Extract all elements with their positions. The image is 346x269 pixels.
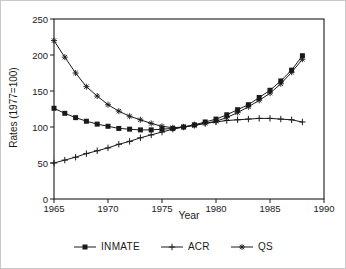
x-axis-label: Year — [54, 209, 324, 221]
series-line-qs — [54, 41, 302, 128]
series-line-acr — [54, 118, 302, 163]
series-markers-qs — [51, 38, 305, 131]
chart-legend: INMATEACRQS — [1, 241, 345, 252]
square-marker — [138, 127, 143, 132]
asterisk-marker — [245, 104, 251, 110]
plus-marker — [105, 145, 111, 151]
plus-marker — [299, 119, 305, 125]
asterisk-marker — [94, 93, 100, 99]
plus-marker — [83, 150, 89, 156]
square-marker — [52, 106, 57, 111]
asterisk-marker — [235, 110, 241, 116]
plus-marker — [278, 116, 284, 122]
asterisk-marker — [51, 38, 57, 44]
legend-label: QS — [258, 241, 273, 252]
plus-marker — [116, 141, 122, 147]
y-tick-label: 100 — [32, 122, 48, 133]
legend-item-inmate: INMATE — [73, 241, 140, 252]
legend-item-qs: QS — [230, 241, 273, 252]
asterisk-marker — [299, 56, 305, 62]
square-marker — [127, 127, 132, 132]
asterisk-marker — [127, 113, 133, 119]
asterisk-marker — [256, 97, 262, 103]
square-marker — [95, 122, 100, 127]
square-marker — [149, 127, 154, 132]
plus-marker — [245, 116, 251, 122]
asterisk-marker — [116, 108, 122, 114]
plot-box — [54, 19, 324, 199]
y-axis-label: Rates (1977=100) — [8, 18, 19, 198]
square-marker — [84, 119, 89, 124]
asterisk-marker — [137, 117, 143, 123]
y-tick-label: 200 — [32, 50, 48, 61]
plus-marker — [72, 154, 78, 160]
asterisk-marker — [83, 84, 89, 90]
asterisk-marker — [267, 90, 273, 96]
legend-label: ACR — [188, 241, 210, 252]
asterisk-marker — [148, 120, 154, 126]
asterisk-marker — [159, 123, 165, 129]
y-tick-label: 50 — [37, 158, 48, 169]
plus-marker — [234, 117, 240, 123]
plus-marker — [169, 243, 175, 249]
plus-marker — [148, 132, 154, 138]
asterisk-marker — [239, 244, 245, 250]
y-tick-label: 250 — [32, 14, 48, 25]
square-marker — [62, 111, 67, 116]
plus-marker — [126, 138, 132, 144]
asterisk-marker — [224, 115, 230, 121]
plus-marker — [94, 148, 100, 154]
asterisk-marker — [278, 81, 284, 87]
asterisk-marker — [62, 54, 68, 60]
asterisk-marker — [213, 118, 219, 124]
square-marker — [106, 124, 111, 129]
chart-svg: 050100150200250196519701975198019851990 — [1, 1, 346, 239]
square-marker — [83, 244, 88, 249]
plus-marker — [288, 117, 294, 123]
y-axis-label-wrap: Rates (1977=100) — [6, 19, 20, 199]
square-marker — [116, 126, 121, 131]
series-markers-acr — [51, 115, 306, 166]
asterisk-marker — [170, 125, 176, 131]
plus-marker — [256, 115, 262, 121]
legend-label: INMATE — [101, 241, 140, 252]
y-tick-label: 150 — [32, 86, 48, 97]
asterisk-marker — [105, 102, 111, 108]
plus-marker — [51, 160, 57, 166]
asterisk-marker — [202, 120, 208, 126]
asterisk-marker — [191, 123, 197, 129]
plus-marker — [62, 157, 68, 163]
acr-marker-icon — [160, 242, 184, 252]
asterisk-marker — [73, 70, 79, 76]
line-chart-figure: 050100150200250196519701975198019851990 … — [0, 0, 346, 269]
legend-item-acr: ACR — [160, 241, 210, 252]
asterisk-marker — [181, 124, 187, 130]
qs-marker-icon — [230, 242, 254, 252]
plus-marker — [137, 135, 143, 141]
inmate-marker-icon — [73, 242, 97, 252]
square-marker — [73, 115, 78, 120]
plus-marker — [267, 115, 273, 121]
asterisk-marker — [289, 69, 295, 75]
